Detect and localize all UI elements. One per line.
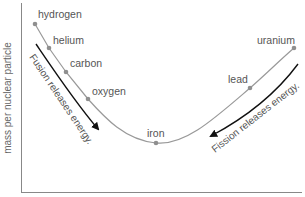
label-oxygen: oxygen (92, 85, 126, 97)
point-uranium (292, 46, 297, 51)
point-hydrogen (33, 22, 38, 27)
label-uranium: uranium (257, 34, 295, 46)
point-carbon (64, 70, 69, 75)
label-iron: iron (147, 127, 165, 139)
point-helium (47, 46, 52, 51)
point-oxygen (86, 97, 91, 102)
label-carbon: carbon (70, 57, 102, 69)
label-hydrogen: hydrogen (38, 8, 82, 20)
fission-annotation: Fission releases energy. (209, 80, 301, 155)
binding-energy-diagram: mass per nuclear particle hydrogen heliu… (0, 0, 305, 197)
y-axis-label: mass per nuclear particle (2, 42, 13, 154)
label-helium: helium (53, 34, 84, 46)
point-iron (154, 141, 159, 146)
point-lead (248, 86, 253, 91)
label-lead: lead (228, 73, 248, 85)
